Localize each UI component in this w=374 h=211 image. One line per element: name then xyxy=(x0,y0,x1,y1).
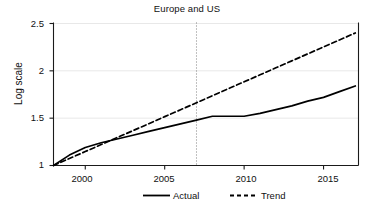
series-line-trend xyxy=(54,33,356,166)
tick-marks xyxy=(50,24,324,170)
chart-figure: Europe and US Log scale 2.5 2 1.5 1 2000… xyxy=(0,0,374,211)
series-line-actual xyxy=(54,86,356,166)
data-series-group xyxy=(54,33,356,166)
plot-area xyxy=(0,0,374,211)
legend-label-trend: Trend xyxy=(261,190,285,201)
legend-label-actual: Actual xyxy=(173,190,199,201)
